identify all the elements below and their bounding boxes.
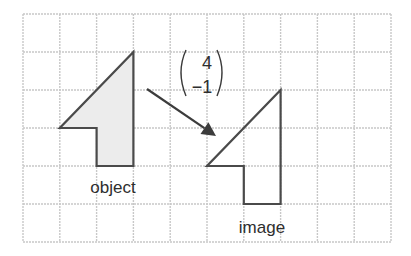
- vector-bottom-component: −1: [192, 77, 213, 97]
- left-parenthesis: [181, 50, 186, 96]
- vector-top-component: 4: [202, 53, 212, 73]
- object-label: object: [90, 178, 136, 197]
- image-label: image: [239, 218, 285, 237]
- arrow-head-icon: [201, 122, 217, 136]
- right-parenthesis: [217, 50, 222, 96]
- translation-diagram: 4 −1 object image: [0, 0, 411, 256]
